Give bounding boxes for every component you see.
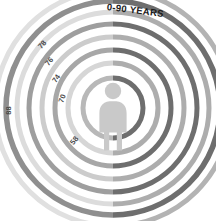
- ring-value-label: 88: [4, 106, 13, 114]
- infographic-canvas: 0-90 YEARS 587074767888: [0, 0, 216, 221]
- concentric-rings-graphic: [0, 0, 216, 221]
- ring-arc-right: [113, 1, 216, 215]
